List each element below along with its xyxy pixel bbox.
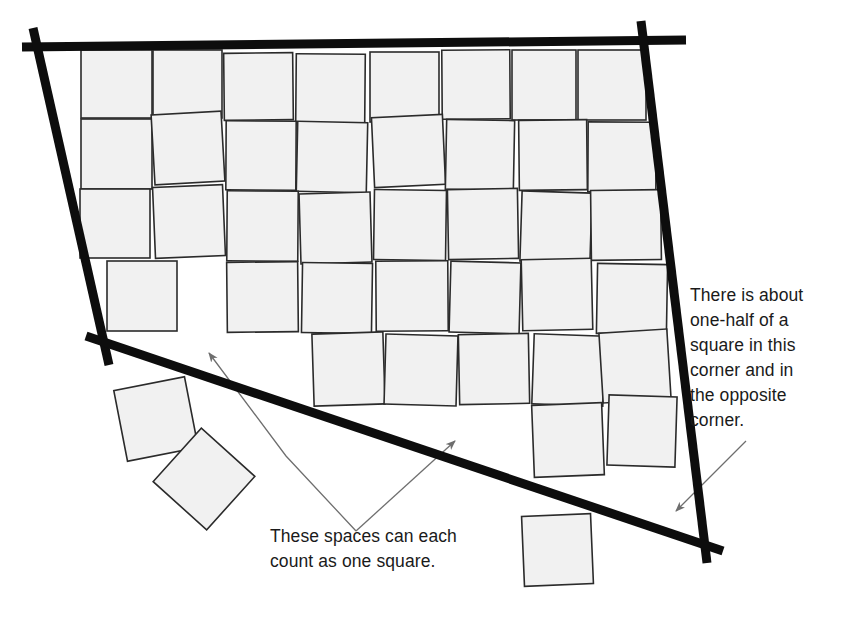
spaces-note-text: These spaces can each count as one squar… <box>270 524 457 574</box>
square-tile <box>153 50 222 118</box>
square-tile <box>374 190 447 261</box>
square-tile <box>153 185 226 259</box>
square-tile <box>312 332 385 406</box>
square-tile <box>449 261 521 334</box>
square-tiling-figure: There is about one-half of a square in t… <box>0 0 841 619</box>
square-tile <box>588 122 656 192</box>
square-tile <box>596 263 667 334</box>
square-tile <box>532 334 605 406</box>
square-tile <box>376 261 448 332</box>
square-tile <box>607 395 677 467</box>
square-tile <box>371 114 445 187</box>
square-tile <box>227 191 298 261</box>
square-tile <box>296 121 367 192</box>
square-tile <box>384 334 458 406</box>
square-tile <box>578 50 646 120</box>
square-tile <box>591 190 662 261</box>
square-tile <box>445 119 514 190</box>
square-tile <box>447 188 518 259</box>
square-tile <box>299 192 372 264</box>
square-tile <box>81 50 152 118</box>
leader-to-corner <box>676 441 746 511</box>
square-tile <box>599 329 671 403</box>
square-tile <box>224 53 294 121</box>
square-tile <box>80 189 150 258</box>
square-tile <box>512 50 576 120</box>
square-tile <box>532 403 605 478</box>
square-tile <box>522 514 594 587</box>
square-tile <box>458 333 529 404</box>
square-tile <box>370 52 439 122</box>
square-tile <box>227 262 299 333</box>
top-edge-line <box>22 40 686 47</box>
square-tile <box>81 119 152 189</box>
square-tile <box>301 262 372 333</box>
square-tile <box>226 121 296 190</box>
square-tile <box>107 261 177 331</box>
square-tile <box>519 120 588 191</box>
square-tile <box>296 54 366 125</box>
corner-note-text: There is about one-half of a square in t… <box>690 283 803 433</box>
square-tile <box>520 191 592 263</box>
square-tile <box>442 50 510 119</box>
square-tile <box>521 258 593 331</box>
square-tile <box>151 111 225 185</box>
